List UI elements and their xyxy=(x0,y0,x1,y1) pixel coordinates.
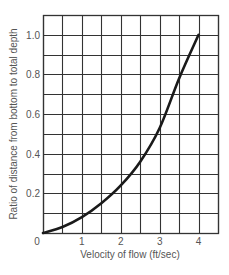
y-tick-label: 0.6 xyxy=(26,109,40,120)
y-axis-label: Ratio of distance from bottom to total d… xyxy=(8,28,19,219)
x-tick-label: 0 xyxy=(34,236,40,247)
y-tick-label: 1.0 xyxy=(26,30,40,41)
x-tick-label: 3 xyxy=(157,236,163,247)
y-tick-label: 0.8 xyxy=(26,69,40,80)
x-tick-label: 2 xyxy=(118,236,124,247)
velocity-profile-chart: 01234 0.20.40.60.81.0 Velocity of flow (… xyxy=(0,0,229,275)
x-axis-label: Velocity of flow (ft/sec) xyxy=(80,249,179,260)
velocity-curve xyxy=(43,35,199,233)
y-tick-label: 0.2 xyxy=(26,188,40,199)
x-tick-label: 4 xyxy=(196,236,202,247)
y-axis-ticks: 0.20.40.60.81.0 xyxy=(26,30,40,200)
x-tick-label: 1 xyxy=(79,236,85,247)
x-axis-ticks: 01234 xyxy=(34,236,202,247)
y-tick-label: 0.4 xyxy=(26,149,40,160)
